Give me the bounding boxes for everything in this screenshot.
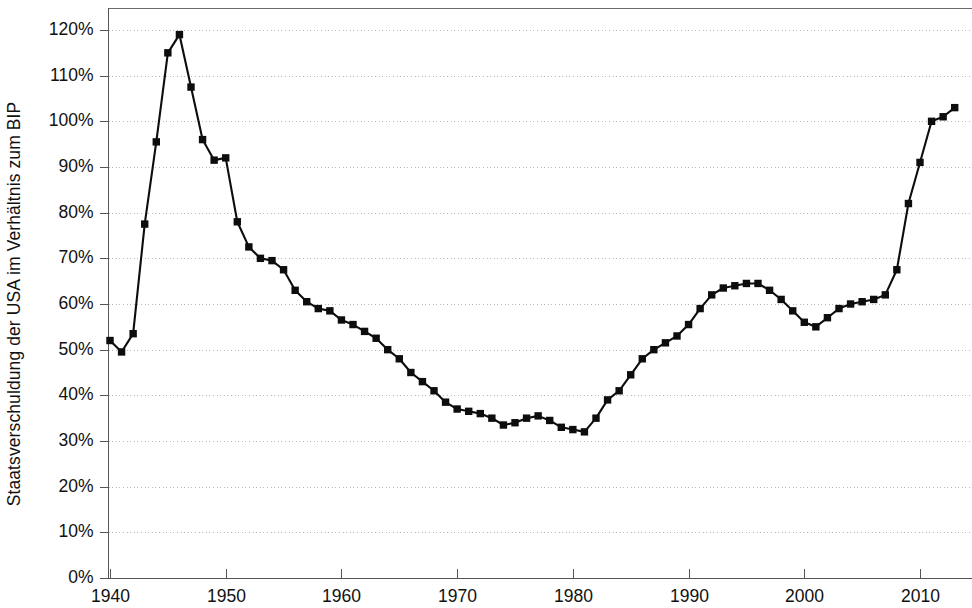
data-point [430,387,437,394]
data-point [546,417,553,424]
data-point [928,118,935,125]
data-point [153,138,160,145]
data-point [615,387,622,394]
data-point [280,266,287,273]
data-point [141,220,148,227]
x-axis-ticks: 19401950196019701980199020002010 [91,569,940,606]
y-axis-ticks: 120%110%100%90%80%70%60%50%40%30%20%10%0… [49,19,109,587]
series-markers [106,31,958,436]
data-point [106,337,113,344]
data-point [743,280,750,287]
x-tick-label: 1990 [670,586,709,606]
gridlines [109,31,972,533]
data-point [801,319,808,326]
data-point [685,321,692,328]
y-tick-label: 50% [58,339,93,359]
y-tick-label: 90% [58,156,93,176]
data-point [245,243,252,250]
y-tick-label: 110% [50,65,93,85]
debt-to-gdp-chart: Staatsverschuldung der USA im Verhältnis… [0,0,972,608]
data-point [847,300,854,307]
y-tick-label: 60% [58,293,93,313]
data-point [477,410,484,417]
data-point [176,31,183,38]
data-point [222,154,229,161]
data-point [338,316,345,323]
x-tick-label: 1940 [91,586,130,606]
y-tick-label: 30% [58,430,93,450]
data-point [858,298,865,305]
data-point [893,266,900,273]
data-point [939,113,946,120]
data-point [500,421,507,428]
data-point [627,371,634,378]
plot-frame [108,8,972,579]
data-point [581,428,588,435]
data-point [534,412,541,419]
x-tick-label: 2000 [785,586,824,606]
x-tick-label: 1980 [554,586,593,606]
data-point [523,414,530,421]
plot-area: 120%110%100%90%80%70%60%50%40%30%20%10%0… [0,0,972,608]
x-tick-label: 1970 [438,586,477,606]
y-tick-label: 100% [49,110,94,130]
data-point [754,280,761,287]
data-point [396,355,403,362]
data-point [453,405,460,412]
data-point [210,156,217,163]
series-line [110,35,955,432]
data-point [673,332,680,339]
data-point [569,426,576,433]
data-point [708,291,715,298]
data-series [106,31,958,436]
data-point [720,284,727,291]
data-point [511,419,518,426]
data-point [118,348,125,355]
x-tick-label: 1960 [322,586,361,606]
data-point [419,378,426,385]
data-point [870,296,877,303]
data-point [465,408,472,415]
y-tick-label: 80% [58,202,93,222]
data-point [488,414,495,421]
data-point [558,424,565,431]
data-point [639,355,646,362]
data-point [315,305,322,312]
y-tick-label: 20% [58,476,93,496]
x-tick-label: 1950 [207,586,246,606]
data-point [164,49,171,56]
data-point [407,369,414,376]
data-point [951,104,958,111]
data-point [303,298,310,305]
data-point [361,328,368,335]
data-point [650,346,657,353]
data-point [777,296,784,303]
data-point [234,218,241,225]
data-point [592,414,599,421]
data-point [766,287,773,294]
data-point [129,330,136,337]
data-point [349,321,356,328]
data-point [268,257,275,264]
data-point [442,398,449,405]
data-point [604,396,611,403]
y-tick-label: 120% [49,19,94,39]
data-point [824,314,831,321]
data-point [812,323,819,330]
data-point [257,255,264,262]
data-point [291,287,298,294]
data-point [199,136,206,143]
data-point [882,291,889,298]
x-tick-label: 2010 [901,586,940,606]
data-point [384,346,391,353]
data-point [372,335,379,342]
data-point [326,307,333,314]
data-point [731,282,738,289]
data-point [835,305,842,312]
data-point [662,339,669,346]
y-tick-label: 70% [58,247,93,267]
data-point [696,305,703,312]
data-point [187,83,194,90]
data-point [916,159,923,166]
data-point [905,200,912,207]
